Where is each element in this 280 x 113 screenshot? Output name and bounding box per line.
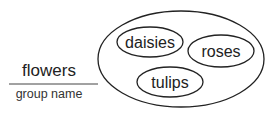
group-value: flowers xyxy=(0,61,98,81)
group-caption: group name xyxy=(0,87,98,101)
member-label-roses: roses xyxy=(201,43,240,60)
member-label-tulips: tulips xyxy=(151,74,188,91)
member-label-daisies: daisies xyxy=(125,34,175,51)
